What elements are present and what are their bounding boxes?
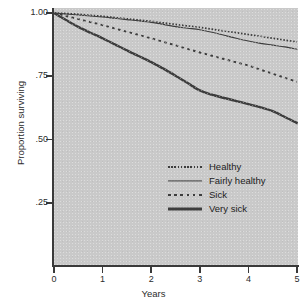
y-axis-label: Proportion surviving xyxy=(16,48,26,198)
x-tick-label: 4 xyxy=(241,275,255,284)
y-axis-line xyxy=(52,8,54,267)
x-tick xyxy=(296,266,298,273)
legend-item-healthy: Healthy xyxy=(168,160,300,174)
y-tick-label: .50 xyxy=(35,135,48,144)
x-tick xyxy=(102,266,104,273)
figure: 1.00.75.50.25 012345 Proportion survivin… xyxy=(0,0,307,306)
x-tick xyxy=(150,266,152,273)
legend-swatch-fairly-healthy-icon xyxy=(168,176,202,186)
curve-fairly-healthy xyxy=(54,13,297,49)
x-tick-label: 2 xyxy=(144,275,158,284)
legend-label-sick: Sick xyxy=(209,190,227,200)
x-tick xyxy=(199,266,201,273)
legend-label-fairly-healthy: Fairly healthy xyxy=(209,176,266,186)
x-tick xyxy=(53,266,55,273)
legend: Healthy Fairly healthy Sick Very sick xyxy=(168,160,300,216)
y-tick-label: 1.00 xyxy=(30,8,48,17)
y-tick-label: .25 xyxy=(35,198,48,207)
plot-area xyxy=(53,8,298,266)
legend-label-very-sick: Very sick xyxy=(209,204,247,214)
legend-item-sick: Sick xyxy=(168,188,300,202)
survival-curves xyxy=(53,8,298,266)
legend-item-very-sick: Very sick xyxy=(168,202,300,216)
legend-label-healthy: Healthy xyxy=(209,162,241,172)
x-axis-label: Years xyxy=(0,289,307,299)
y-tick-label: .75 xyxy=(35,71,48,80)
curve-healthy xyxy=(54,13,297,42)
legend-swatch-sick-icon xyxy=(168,190,202,200)
x-tick-label: 1 xyxy=(96,275,110,284)
x-axis-line xyxy=(52,265,299,267)
x-tick-label: 0 xyxy=(47,275,61,284)
legend-swatch-very-sick-icon xyxy=(168,204,202,214)
curve-sick xyxy=(54,13,297,82)
legend-swatch-healthy-icon xyxy=(168,162,202,172)
legend-item-fairly-healthy: Fairly healthy xyxy=(168,174,300,188)
curve-very-sick xyxy=(54,13,297,123)
x-tick xyxy=(248,266,250,273)
x-tick-label: 3 xyxy=(193,275,207,284)
x-tick-label: 5 xyxy=(290,275,304,284)
